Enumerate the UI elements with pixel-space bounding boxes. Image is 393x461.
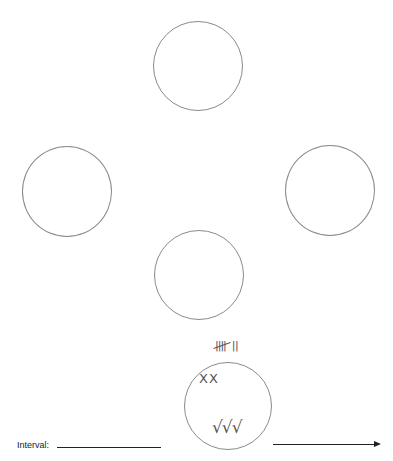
interval-blank-line[interactable] — [57, 447, 161, 448]
diagram-canvas: |||| || XX √√√ Interval: — [0, 0, 393, 461]
tally-marks: |||| || — [215, 340, 238, 351]
circle-right — [285, 145, 375, 236]
interval-label: Interval: — [17, 440, 49, 450]
arrow-shaft — [273, 444, 375, 445]
circle-top — [153, 21, 243, 111]
arrow-head-icon — [374, 441, 381, 447]
tally-five-icon: |||| — [215, 340, 226, 351]
crosses-marks: XX — [199, 372, 219, 385]
circle-middle — [154, 230, 244, 320]
circle-left — [22, 146, 112, 237]
check-marks: √√√ — [212, 419, 242, 436]
tally-extra: || — [232, 339, 238, 352]
